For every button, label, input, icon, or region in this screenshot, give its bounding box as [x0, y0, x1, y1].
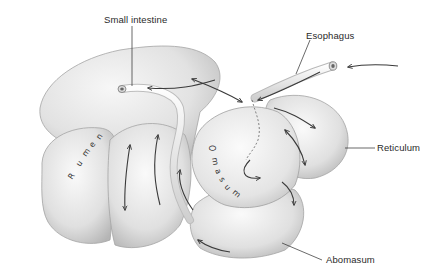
label-esophagus: Esophagus	[306, 30, 354, 41]
stomach-illustration: R u m e n O m a s u m	[0, 0, 433, 276]
svg-text:O: O	[207, 145, 216, 151]
label-abomasum: Abomasum	[326, 254, 375, 265]
omasum	[192, 107, 300, 208]
ruminant-stomach-diagram: R u m e n O m a s u m Small intestine Es…	[0, 0, 433, 276]
label-small-intestine: Small intestine	[104, 14, 167, 25]
label-reticulum: Reticulum	[377, 142, 420, 153]
rumen-lower-left-sac	[42, 128, 116, 244]
